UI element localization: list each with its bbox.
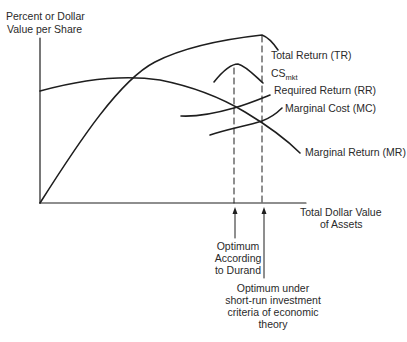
cs-mkt-label: CSmkt [271,67,298,84]
econ-line-2: short-run investment [218,294,328,306]
y-axis-label-line-1: Percent or Dollar [6,10,85,22]
cs-mkt-curve [214,64,263,83]
durand-arrowhead-icon [233,207,238,214]
x-axis-label-line-2: of Assets [320,218,363,230]
cs-mkt-label-sub: mkt [286,73,298,82]
tr-label: Total Return (TR) [271,49,352,61]
x-axis-label-line-1: Total Dollar Value [300,206,382,218]
durand-line-1: Optimum [213,240,263,252]
economic-optimum-annotation: Optimum under short-run investment crite… [218,282,328,330]
mc-label: Marginal Cost (MC) [285,102,376,114]
economic-arrowhead-icon [262,207,267,214]
y-axis-label-line-2: Value per Share [7,23,82,35]
durand-line-3: to Durand [213,264,263,276]
mr-curve [40,78,300,153]
mr-label: Marginal Return (MR) [305,146,406,158]
durand-optimum-annotation: Optimum According to Durand [213,240,263,276]
rr-curve [181,95,270,116]
econ-line-1: Optimum under [218,282,328,294]
tr-curve [40,35,278,203]
cs-mkt-label-main: CS [271,67,286,79]
durand-line-2: According [213,252,263,264]
econ-line-3: criteria of economic [218,306,328,318]
rr-label: Required Return (RR) [274,84,376,96]
econ-line-4: theory [218,318,328,330]
